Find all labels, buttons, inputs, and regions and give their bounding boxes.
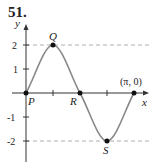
y-tick-neg2: -2 (7, 136, 15, 147)
y-axis-label: y (14, 17, 20, 29)
point-end (132, 91, 137, 96)
label-s: S (103, 144, 109, 156)
x-axis-label: x (141, 96, 147, 108)
x-axis-arrow-icon (143, 91, 149, 96)
y-tick-neg1: -1 (7, 112, 15, 123)
point-r (78, 91, 83, 96)
point-q (51, 43, 56, 48)
label-p: P (27, 95, 35, 107)
label-q: Q (49, 30, 57, 42)
sine-graph: y x 2 1 -1 -2 P Q R S (π, 0) (0, 0, 157, 166)
y-tick-1: 1 (13, 64, 18, 75)
y-axis-arrow-icon (24, 24, 29, 30)
point-s (105, 139, 110, 144)
label-end-point: (π, 0) (120, 76, 142, 88)
label-r: R (69, 95, 77, 107)
y-tick-2: 2 (12, 40, 17, 51)
